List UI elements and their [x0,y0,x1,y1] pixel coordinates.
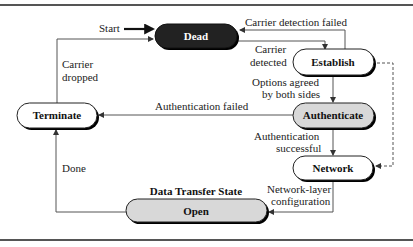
state-network-label: Network [313,162,355,174]
carrier-detected-label-1: Carrier [255,43,286,55]
state-dead: Dead [155,24,239,50]
state-authenticate-label: Authenticate [303,109,364,121]
state-network: Network [293,156,375,182]
carrier-dropped-label-1: Carrier [62,58,93,70]
carrier-detected-label-2: detected [250,56,287,68]
state-terminate-label: Terminate [33,109,82,121]
state-establish: Establish [293,49,376,77]
authentication-failed-label: Authentication failed [155,100,249,112]
state-open: Open [126,199,269,224]
state-establish-label: Establish [311,56,354,68]
network-layer-label-2: configuration [271,195,331,207]
state-authenticate: Authenticate [293,103,376,130]
authentication-successful-label-2: successful [276,142,321,154]
state-terminate: Terminate [17,103,99,130]
options-agreed-label-1: Options agreed [252,76,319,88]
carrier-detection-failed-label: Carrier detection failed [245,16,348,28]
state-diagram: Start Carrier detection failed Carrier d… [0,0,413,247]
state-dead-label: Dead [184,30,208,42]
state-open-label: Open [183,205,209,217]
data-transfer-state-caption: Data Transfer State [150,185,242,197]
network-layer-label-1: Network-layer [267,183,331,195]
done-label: Done [62,162,86,174]
authentication-successful-label-1: Authentication [254,130,320,142]
carrier-dropped-label-2: dropped [62,71,99,83]
start-label: Start [99,22,120,34]
options-agreed-label-2: by both sides [262,88,320,100]
edge-dashed-bypass [376,63,393,166]
